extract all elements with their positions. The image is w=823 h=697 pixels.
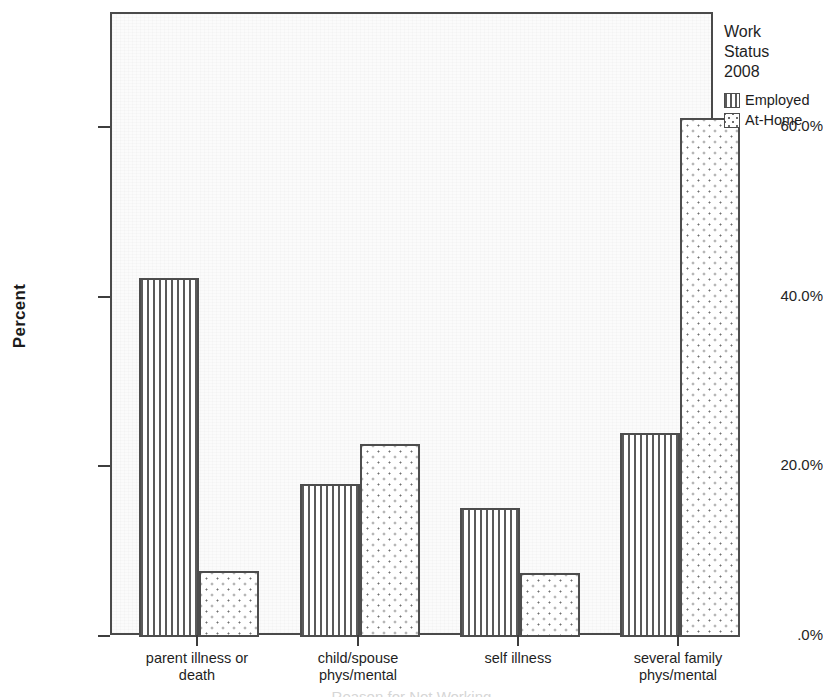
- legend-label: Employed: [745, 92, 809, 108]
- x-tick-label-line: phys/mental: [268, 667, 448, 684]
- x-tick-label-line: child/spouse: [268, 650, 448, 667]
- y-tick-mark-3: [98, 126, 110, 128]
- legend-entry-at-home[interactable]: At-Home: [724, 112, 823, 128]
- x-tick-label-line: several family: [588, 650, 768, 667]
- legend-entry-employed[interactable]: Employed: [724, 92, 823, 108]
- y-tick-mark-1: [98, 465, 110, 467]
- x-tick-label-1: child/spousephys/mental: [268, 650, 448, 684]
- x-tick-label-line: phys/mental: [588, 667, 768, 684]
- y-tick-label-1: 20.0%: [737, 456, 823, 473]
- y-tick-mark-0: [98, 635, 110, 637]
- y-tick-mark-2: [98, 296, 110, 298]
- legend-title-line-2: 2008: [724, 62, 823, 82]
- legend-swatch-vertical-lines-icon: [724, 93, 740, 108]
- y-tick-label-2: 40.0%: [737, 287, 823, 304]
- bar-employed-group-2: [300, 484, 360, 637]
- legend-title-line-0: Work: [724, 22, 823, 42]
- x-tick-label-line: self illness: [428, 650, 608, 667]
- bar-at-home-group-3: [520, 573, 580, 637]
- legend: WorkStatus2008 EmployedAt-Home: [724, 22, 823, 132]
- y-tick-label-0: .0%: [737, 626, 823, 643]
- plot-area: [110, 12, 713, 635]
- x-tick-mark-3: [677, 635, 679, 646]
- bar-employed-group-1: [139, 278, 199, 637]
- legend-swatch-dotted-icon: [724, 113, 740, 128]
- x-tick-mark-1: [357, 635, 359, 646]
- legend-title-line-1: Status: [724, 42, 823, 62]
- y-axis-title: Percent: [10, 256, 30, 376]
- bar-employed-group-4: [620, 433, 680, 637]
- x-tick-mark-0: [196, 635, 198, 646]
- x-tick-label-3: several familyphys/mental: [588, 650, 768, 684]
- x-tick-mark-2: [517, 635, 519, 646]
- legend-title: WorkStatus2008: [724, 22, 823, 82]
- cut-off-caption: Reason for Not Working: [0, 688, 823, 697]
- bar-at-home-group-1: [199, 571, 259, 637]
- legend-entries: EmployedAt-Home: [724, 92, 823, 128]
- bar-at-home-group-2: [360, 444, 420, 637]
- legend-label: At-Home: [745, 112, 802, 128]
- x-tick-label-line: death: [107, 667, 287, 684]
- x-tick-label-line: parent illness or: [107, 650, 287, 667]
- bar-employed-group-3: [460, 508, 520, 637]
- bar-chart: Percent .0%20.0%40.0%60.0% parent illnes…: [0, 0, 823, 697]
- x-tick-label-2: self illness: [428, 650, 608, 667]
- bar-at-home-group-4: [680, 118, 740, 637]
- x-tick-label-0: parent illness ordeath: [107, 650, 287, 684]
